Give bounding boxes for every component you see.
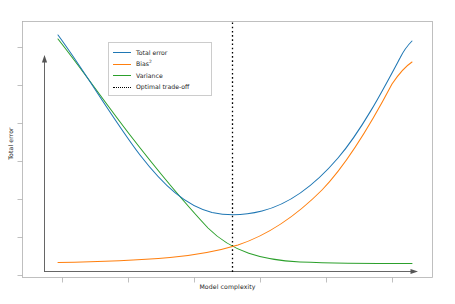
y-axis-arrow: [42, 55, 47, 272]
legend-item-total-error: Total error: [113, 47, 206, 59]
x-axis-label: Model complexity: [0, 283, 455, 290]
y-axis-label: Total error: [7, 94, 14, 194]
chart-legend: Total error Bias2 Variance Optimal trade…: [108, 42, 212, 96]
line-sample-icon: [113, 60, 131, 68]
legend-label-variance: Variance: [136, 72, 163, 80]
x-axis-arrow: [45, 269, 419, 274]
y-axis-label-wrapper: Total error: [0, 0, 24, 304]
legend-label-optimal-tradeoff: Optimal trade-off: [136, 83, 189, 91]
legend-label-bias-base: Bias: [136, 60, 149, 67]
chart-plot-area: [0, 0, 455, 304]
legend-label-bias-squared: Bias2: [136, 60, 152, 68]
dotted-line-sample-icon: [113, 83, 131, 91]
legend-item-bias-squared: Bias2: [113, 59, 206, 71]
legend-label-bias-exponent: 2: [149, 59, 152, 64]
line-sample-icon: [113, 49, 131, 57]
line-sample-icon: [113, 72, 131, 80]
legend-item-optimal-tradeoff: Optimal trade-off: [113, 82, 206, 94]
figure-canvas: Total error Model complexity Total error…: [0, 0, 455, 304]
x-axis-ticks: [63, 278, 393, 283]
legend-label-total-error: Total error: [136, 49, 167, 57]
legend-item-variance: Variance: [113, 70, 206, 82]
figure-frame: [23, 22, 433, 278]
